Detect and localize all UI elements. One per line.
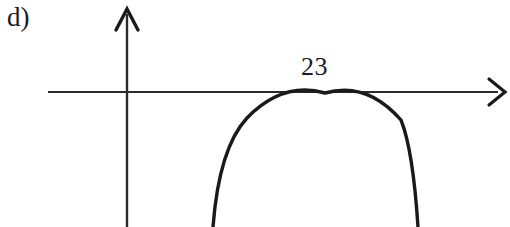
part-label: d)	[7, 4, 30, 31]
vertex-value-label: 23	[301, 54, 328, 80]
parabola-curve	[213, 90, 418, 227]
parabola-figure: d) 23	[0, 0, 510, 227]
figure-canvas	[0, 0, 510, 227]
